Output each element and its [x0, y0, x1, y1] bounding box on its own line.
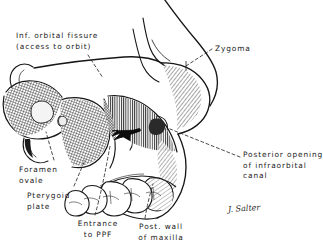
- label-line: Inf. orbital fissure: [16, 31, 98, 40]
- label-posterior-opening-infraorbital-canal: Posterior openingof infraorbitalcanal: [243, 150, 323, 182]
- foramen-spinosum-lumen: [59, 116, 68, 125]
- label-foramen-ovale: Foramenovale: [19, 165, 58, 186]
- label-line: canal: [243, 171, 267, 180]
- label-line: of infraorbital: [243, 161, 307, 170]
- label-line: Entrance: [78, 219, 118, 228]
- label-line: plate: [27, 202, 50, 211]
- label-line: Pterygoid: [27, 191, 70, 200]
- label-entrance-to-ppf: Entranceto PPF: [68, 219, 128, 240]
- label-line: to PPF: [84, 230, 112, 239]
- label-line: Post. wall: [139, 222, 183, 231]
- label-post-wall-of-maxilla: Post. wallof maxilla: [130, 222, 192, 243]
- label-line: of maxilla: [138, 233, 183, 242]
- label-pterygoid-plate: Pterygoidplate: [27, 191, 70, 212]
- label-line: Zygoma: [215, 44, 251, 53]
- label-line: Foramen: [19, 165, 58, 174]
- label-zygoma: Zygoma: [215, 44, 251, 55]
- label-inf-orbital-fissure: Inf. orbital fissure(access to orbit): [16, 31, 98, 52]
- label-line: (access to orbit): [16, 42, 91, 51]
- label-line: ovale: [19, 176, 44, 185]
- label-line: Posterior opening: [243, 150, 323, 159]
- foramen-ovale-lumen: [31, 101, 53, 123]
